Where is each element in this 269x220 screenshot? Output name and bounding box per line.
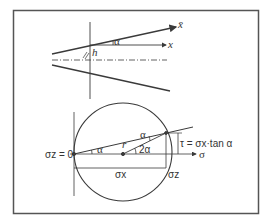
lower-wedge-edge: [52, 65, 170, 91]
diagram-frame: [14, 11, 259, 214]
sigma-x-label: σx: [115, 169, 126, 180]
alpha-label-top: α: [114, 35, 120, 47]
two-alpha-arc: [135, 148, 136, 154]
two-alpha-label: 2α: [139, 144, 151, 155]
h-label: h: [92, 46, 98, 58]
tau-formula-label: τ = σx·tan α: [180, 138, 233, 149]
wedge-sketch: [52, 22, 176, 99]
alpha-arc-left: [92, 150, 93, 154]
mohr-circle: [70, 103, 196, 201]
sigma-axis-label: σ: [199, 148, 205, 160]
sigma-z-label: σz: [168, 169, 179, 180]
alpha-left-label: α: [97, 143, 103, 155]
x-label: x: [167, 38, 173, 50]
mohr-circle-diagram: x̄ x α h σz = 0 α α r 2α τ = σx·tan α σ …: [0, 0, 269, 220]
r-label: r: [122, 138, 127, 150]
x-bar-label: x̄: [177, 18, 183, 30]
alpha-top-label: α: [140, 128, 146, 140]
tangent-dot: [165, 132, 168, 135]
center-dot: [121, 152, 124, 155]
sigma-z-zero-label: σz = 0: [45, 149, 74, 160]
